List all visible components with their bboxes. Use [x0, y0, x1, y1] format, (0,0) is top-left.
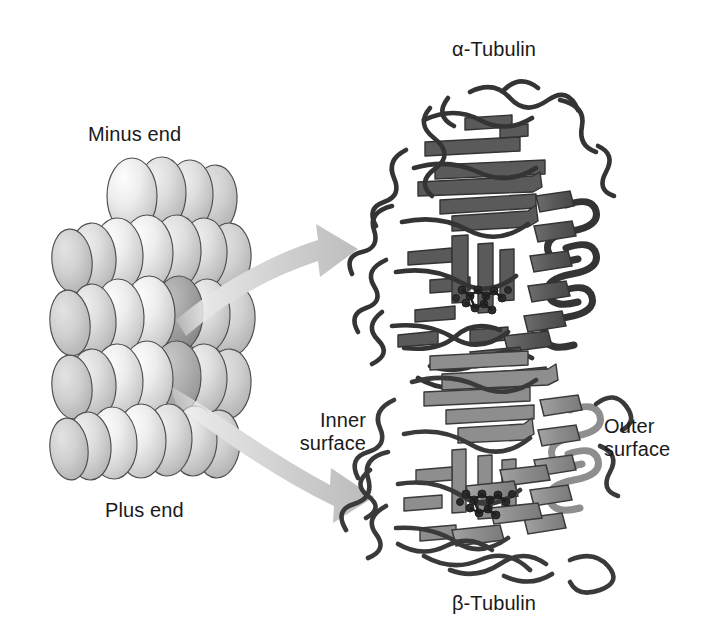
alpha-tubulin-domain	[350, 81, 614, 392]
tubulin-figure: Minus end Plus end α-Tubulin β-Tubulin I…	[0, 0, 704, 638]
label-beta-tubulin: β-Tubulin	[452, 592, 536, 615]
tubulin-ribbon-diagram	[0, 0, 704, 638]
label-inner-surface: Inner surface	[238, 409, 366, 455]
label-outer-surface: Outer surface	[604, 415, 700, 461]
label-alpha-tubulin: α-Tubulin	[452, 38, 536, 61]
beta-tubulin-domain	[342, 351, 632, 593]
label-plus-end: Plus end	[105, 499, 184, 522]
label-minus-end: Minus end	[88, 123, 181, 146]
